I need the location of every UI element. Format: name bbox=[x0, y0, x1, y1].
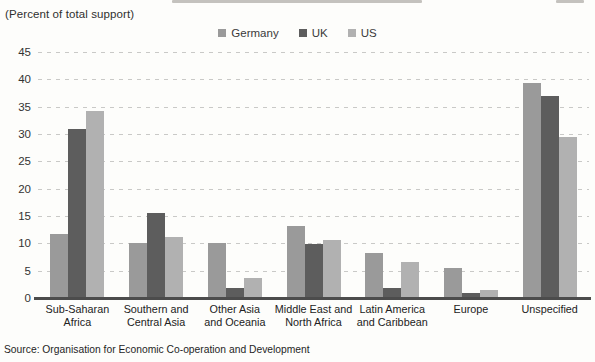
y-tick-label-0: 0 bbox=[0, 291, 31, 305]
y-tick-label-40: 40 bbox=[0, 72, 31, 86]
y-tick-label-10: 10 bbox=[0, 236, 31, 250]
y-tick-label-25: 25 bbox=[0, 154, 31, 168]
bar-germany-middle-east-and-north-africa bbox=[287, 226, 305, 298]
bar-germany-sub-saharan-africa bbox=[50, 234, 68, 299]
y-tick-label-30: 30 bbox=[0, 127, 31, 141]
x-label-unspecified: Unspecified bbox=[510, 303, 589, 330]
bar-group-other-asia-and-oceania bbox=[195, 52, 274, 298]
bar-uk-unspecified bbox=[541, 96, 559, 298]
bar-group-europe bbox=[432, 52, 511, 298]
y-tick-label-35: 35 bbox=[0, 100, 31, 114]
bar-germany-latin-america-and-caribbean bbox=[365, 253, 383, 298]
y-axis: 051015202530354045 bbox=[0, 52, 31, 298]
x-label-other-asia-and-oceania: Other Asia and Oceania bbox=[195, 303, 274, 330]
bar-germany-unspecified bbox=[523, 83, 541, 298]
x-label-sub-saharan-africa: Sub-Saharan Africa bbox=[38, 303, 117, 330]
bar-uk-middle-east-and-north-africa bbox=[305, 244, 323, 298]
y-tick-label-45: 45 bbox=[0, 45, 31, 59]
bar-us-other-asia-and-oceania bbox=[244, 278, 262, 298]
x-label-middle-east-and-north-africa: Middle East and North Africa bbox=[274, 303, 353, 330]
bar-group-middle-east-and-north-africa bbox=[274, 52, 353, 298]
bar-chart: 051015202530354045 Sub-Saharan AfricaSou… bbox=[0, 0, 595, 340]
bar-germany-southern-and-central-asia bbox=[129, 243, 147, 298]
y-tick-label-15: 15 bbox=[0, 209, 31, 223]
y-tick-label-20: 20 bbox=[0, 182, 31, 196]
bar-group-southern-and-central-asia bbox=[117, 52, 196, 298]
source-note: Source: Organisation for Economic Co-ope… bbox=[4, 344, 310, 355]
x-axis-labels: Sub-Saharan AfricaSouthern and Central A… bbox=[38, 303, 589, 330]
bar-group-latin-america-and-caribbean bbox=[353, 52, 432, 298]
bar-us-unspecified bbox=[559, 137, 577, 298]
x-label-europe: Europe bbox=[432, 303, 511, 330]
y-tick-label-5: 5 bbox=[0, 264, 31, 278]
x-label-latin-america-and-caribbean: Latin America and Caribbean bbox=[353, 303, 432, 330]
bar-germany-other-asia-and-oceania bbox=[208, 243, 226, 298]
bar-us-latin-america-and-caribbean bbox=[401, 262, 419, 298]
bar-us-southern-and-central-asia bbox=[165, 237, 183, 298]
bar-group-unspecified bbox=[510, 52, 589, 298]
bar-group-sub-saharan-africa bbox=[38, 52, 117, 298]
bar-us-middle-east-and-north-africa bbox=[323, 240, 341, 298]
bar-uk-sub-saharan-africa bbox=[68, 129, 86, 298]
bar-us-sub-saharan-africa bbox=[86, 111, 104, 298]
bar-groups bbox=[38, 52, 589, 298]
bar-uk-southern-and-central-asia bbox=[147, 213, 165, 298]
x-label-southern-and-central-asia: Southern and Central Asia bbox=[117, 303, 196, 330]
x-axis-line bbox=[34, 297, 591, 300]
bar-germany-europe bbox=[444, 268, 462, 298]
plot-area bbox=[38, 52, 589, 298]
